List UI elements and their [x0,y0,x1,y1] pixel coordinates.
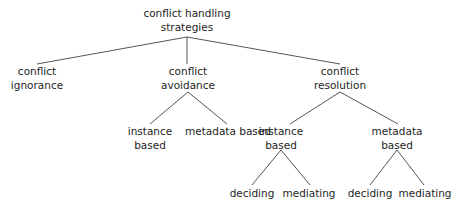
edge-resolution-to-res-instance [290,92,340,124]
tree-edges [0,0,463,209]
node-res-metadata-line2: based [372,138,423,152]
node-inst-deciding-line1: deciding [230,186,275,200]
node-meta-mediating-line1: mediating [398,186,451,200]
node-res-instance-line1: instance [259,124,303,138]
edge-root-to-ignorance [37,37,187,64]
node-resolution-metadata-based: metadata based [372,124,423,152]
node-avoidance-instance-based: instance based [128,124,172,152]
node-res-instance-line2: based [259,138,303,152]
node-conflict-resolution: conflict resolution [314,64,366,92]
node-res-metadata-line1: metadata [372,124,423,138]
node-root-line2: strategies [143,20,230,34]
edge-root-to-resolution [187,37,340,64]
node-avoidance-line1: conflict [161,64,215,78]
node-metadata-deciding: deciding [348,186,393,200]
edge-avoidance-to-avoid-instance [150,92,188,124]
edge-res-instance-to-res-inst-mediating [281,150,310,185]
node-instance-deciding: deciding [230,186,275,200]
edge-resolution-to-res-metadata [340,92,398,124]
node-avoid-instance-line2: based [128,138,172,152]
edge-res-instance-to-res-inst-deciding [252,150,281,185]
node-meta-deciding-line1: deciding [348,186,393,200]
node-conflict-ignorance: conflict ignorance [11,64,63,92]
node-ignorance-line1: conflict [11,64,63,78]
node-avoid-instance-line1: instance [128,124,172,138]
node-root: conflict handling strategies [143,6,230,34]
node-resolution-line2: resolution [314,78,366,92]
node-resolution-line1: conflict [314,64,366,78]
node-ignorance-line2: ignorance [11,78,63,92]
node-resolution-instance-based: instance based [259,124,303,152]
node-metadata-mediating: mediating [398,186,451,200]
node-inst-mediating-line1: mediating [282,186,335,200]
edge-res-metadata-to-res-meta-deciding [370,150,397,185]
node-root-line1: conflict handling [143,6,230,20]
node-avoidance-line2: avoidance [161,78,215,92]
edge-res-metadata-to-res-meta-mediating [397,150,424,185]
node-instance-mediating: mediating [282,186,335,200]
node-conflict-avoidance: conflict avoidance [161,64,215,92]
edge-avoidance-to-avoid-metadata [188,92,227,124]
conflict-handling-tree: conflict handling strategies conflict ig… [0,0,463,209]
